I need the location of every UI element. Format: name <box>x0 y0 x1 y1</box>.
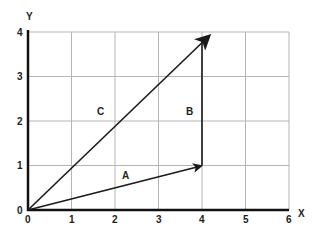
y-tick-4: 4 <box>17 27 23 38</box>
vector-diagram: A B C 0 1 2 3 4 0 1 2 3 4 5 6 Y X <box>0 0 318 237</box>
y-axis-label: Y <box>26 11 33 22</box>
y-tick-2: 2 <box>17 116 23 127</box>
x-tick-2: 2 <box>112 214 118 225</box>
y-tick-3: 3 <box>17 71 23 82</box>
y-tick-1: 1 <box>17 160 23 171</box>
x-tick-4: 4 <box>199 214 205 225</box>
vector-c-label: C <box>97 106 104 117</box>
vector-a-label: A <box>122 170 129 181</box>
vector-c <box>28 36 209 210</box>
x-axis-label: X <box>298 208 305 219</box>
vector-b-label: B <box>186 106 193 117</box>
y-tick-0: 0 <box>17 205 23 216</box>
grid <box>28 32 289 210</box>
x-tick-0: 0 <box>25 214 31 225</box>
x-tick-6: 6 <box>286 214 292 225</box>
x-tick-5: 5 <box>243 214 249 225</box>
x-tick-1: 1 <box>69 214 75 225</box>
x-tick-3: 3 <box>156 214 162 225</box>
